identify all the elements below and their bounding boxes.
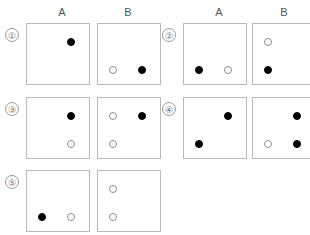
- dot-open-top-left: [109, 112, 117, 120]
- item-number-2: ②: [162, 28, 176, 42]
- dot-filled-top-right: [293, 112, 301, 120]
- dot-open-bottom-left: [109, 66, 117, 74]
- dot-open-bottom-left: [109, 213, 117, 221]
- item-number-5: ⑤: [5, 175, 19, 189]
- dot-open-bottom-left: [109, 140, 117, 148]
- column-header-b-3: B: [274, 6, 294, 18]
- panel-4-b[interactable]: [252, 97, 310, 159]
- dot-filled-bottom-left: [264, 66, 272, 74]
- dot-filled-bottom-right: [293, 140, 301, 148]
- item-number-4: ④: [162, 102, 176, 116]
- column-header-b-1: B: [118, 6, 138, 18]
- dot-open-bottom-right: [224, 66, 232, 74]
- panel-5-a[interactable]: [26, 170, 90, 232]
- dot-open-bottom-right: [67, 213, 75, 221]
- dot-open-top-left: [264, 38, 272, 46]
- item-number-1: ①: [5, 28, 19, 42]
- dot-filled-top-right: [67, 112, 75, 120]
- panel-3-b[interactable]: [97, 97, 161, 159]
- dot-filled-top-right: [67, 38, 75, 46]
- dot-open-bottom-left: [264, 140, 272, 148]
- dot-filled-bottom-left: [195, 66, 203, 74]
- panel-3-a[interactable]: [26, 97, 90, 159]
- dot-filled-bottom-right: [138, 66, 146, 74]
- panel-1-b[interactable]: [97, 23, 161, 85]
- dot-filled-bottom-left: [195, 140, 203, 148]
- column-header-a-2: A: [209, 6, 229, 18]
- dot-open-bottom-right: [67, 140, 75, 148]
- dot-filled-top-right: [224, 112, 232, 120]
- dot-filled-bottom-left: [38, 213, 46, 221]
- panel-5-b[interactable]: [97, 170, 161, 232]
- column-header-a-0: A: [52, 6, 72, 18]
- diagram-canvas: ABAB①②③④⑤: [0, 0, 310, 235]
- dot-filled-top-right: [138, 112, 146, 120]
- panel-2-b[interactable]: [252, 23, 310, 85]
- panel-4-a[interactable]: [183, 97, 247, 159]
- panel-1-a[interactable]: [26, 23, 90, 85]
- item-number-3: ③: [5, 102, 19, 116]
- panel-2-a[interactable]: [183, 23, 247, 85]
- dot-open-top-left: [109, 185, 117, 193]
